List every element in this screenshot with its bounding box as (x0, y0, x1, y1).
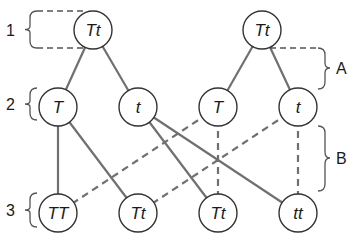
node-label: Tt (130, 204, 146, 223)
bracket-label-b: B (336, 150, 347, 167)
node-p1: Tt (74, 11, 112, 49)
bracket-b (318, 126, 330, 191)
row-label-1: 1 (6, 22, 15, 39)
node-g2: t (119, 88, 157, 126)
node-label: tt (293, 204, 304, 223)
row-label-3: 3 (6, 202, 15, 219)
node-label: T (213, 98, 225, 117)
bracket-label-a: A (336, 60, 347, 77)
solid-edge (138, 107, 218, 213)
node-g4: t (279, 88, 317, 126)
curly-brace-icon (25, 193, 37, 227)
curly-brace-icon (25, 88, 37, 120)
diagram-canvas: TtTtTtTtTTTtTttt 1 2 3 A B (0, 0, 355, 246)
node-o3: Tt (199, 194, 237, 232)
node-o1: TT (39, 194, 77, 232)
node-o2: Tt (119, 194, 157, 232)
curly-brace-icon (318, 48, 330, 89)
bracket-3 (25, 193, 37, 227)
row-label-2: 2 (6, 96, 15, 113)
edges (58, 30, 298, 213)
punnett-branch-diagram: TtTtTtTtTTTtTttt 1 2 3 A B (0, 0, 355, 246)
node-g1: T (39, 88, 77, 126)
node-label: TT (48, 204, 70, 223)
node-label: T (53, 98, 65, 117)
curly-brace-icon (25, 11, 37, 48)
node-g3: T (199, 88, 237, 126)
curly-brace-icon (318, 126, 330, 191)
node-o4: tt (279, 194, 317, 232)
solid-edge (58, 107, 138, 213)
node-label: Tt (85, 21, 101, 40)
bracket-2 (25, 88, 37, 120)
node-label: Tt (254, 21, 270, 40)
node-p2: Tt (243, 11, 281, 49)
node-label: Tt (210, 204, 226, 223)
